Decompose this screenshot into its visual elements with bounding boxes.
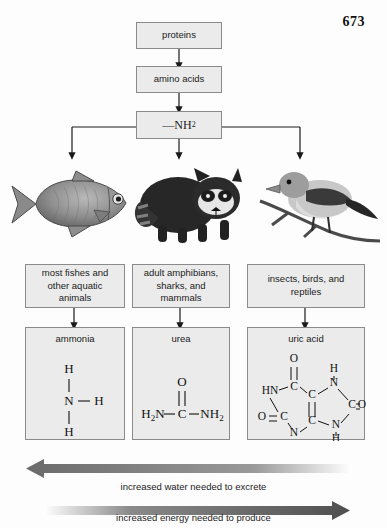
bird-illustration	[258, 155, 384, 245]
group-box-mammals: adult amphibians, sharks, and mammals	[132, 264, 230, 308]
group-h2n: H2N	[141, 406, 165, 423]
atom-c8: C	[348, 398, 356, 410]
atom-h-n7: H	[330, 362, 338, 374]
amine-subscript: 2	[192, 120, 196, 131]
atom-o-left: O	[258, 410, 266, 422]
node-amine-group: —NH2	[136, 111, 222, 139]
urea-structure: O C H2N NH2	[133, 328, 231, 441]
chem-box-ammonia: ammonia H N H H	[25, 327, 125, 440]
atom-h-n3: H	[290, 439, 298, 441]
atom-n: N	[64, 393, 74, 408]
water-scale-label: increased water needed to excrete	[0, 481, 387, 492]
atom-c5: C	[308, 388, 316, 400]
fish-illustration	[2, 168, 134, 240]
atom-h-right: H	[94, 393, 103, 408]
chem-box-urea: urea O C H2N NH2	[132, 327, 230, 440]
node-proteins: proteins	[136, 22, 222, 49]
group-box-reptiles: insects, birds, and reptiles	[247, 264, 365, 308]
water-arrow	[26, 459, 352, 478]
atom-c6: C	[290, 380, 298, 392]
amine-label: —NH	[162, 117, 191, 133]
group-hn: HN	[262, 384, 279, 396]
atom-c2: C	[280, 410, 288, 422]
atom-c: C	[178, 406, 187, 421]
energy-scale-label: increased energy needed to produce	[0, 512, 387, 523]
raccoon-illustration	[132, 160, 250, 244]
atom-h-bottom: H	[64, 424, 73, 439]
ammonia-structure: H N H H	[26, 328, 126, 441]
atom-o-top: O	[290, 352, 298, 364]
diagram-page: 673 proteins	[0, 0, 387, 528]
group-nh2: NH2	[200, 406, 223, 423]
group-box-aquatic: most fishes and other aquatic animals	[25, 264, 125, 308]
atom-o: O	[177, 374, 186, 389]
atom-h-top: H	[64, 361, 73, 376]
atom-n9: N	[332, 418, 341, 430]
uric-acid-structure: O C HN O C N H C C N H N H C O	[248, 328, 366, 441]
node-amino-acids: amino acids	[136, 66, 222, 93]
chem-box-uric-acid: uric acid O C HN O C N H C C N H N H C O	[247, 327, 365, 440]
